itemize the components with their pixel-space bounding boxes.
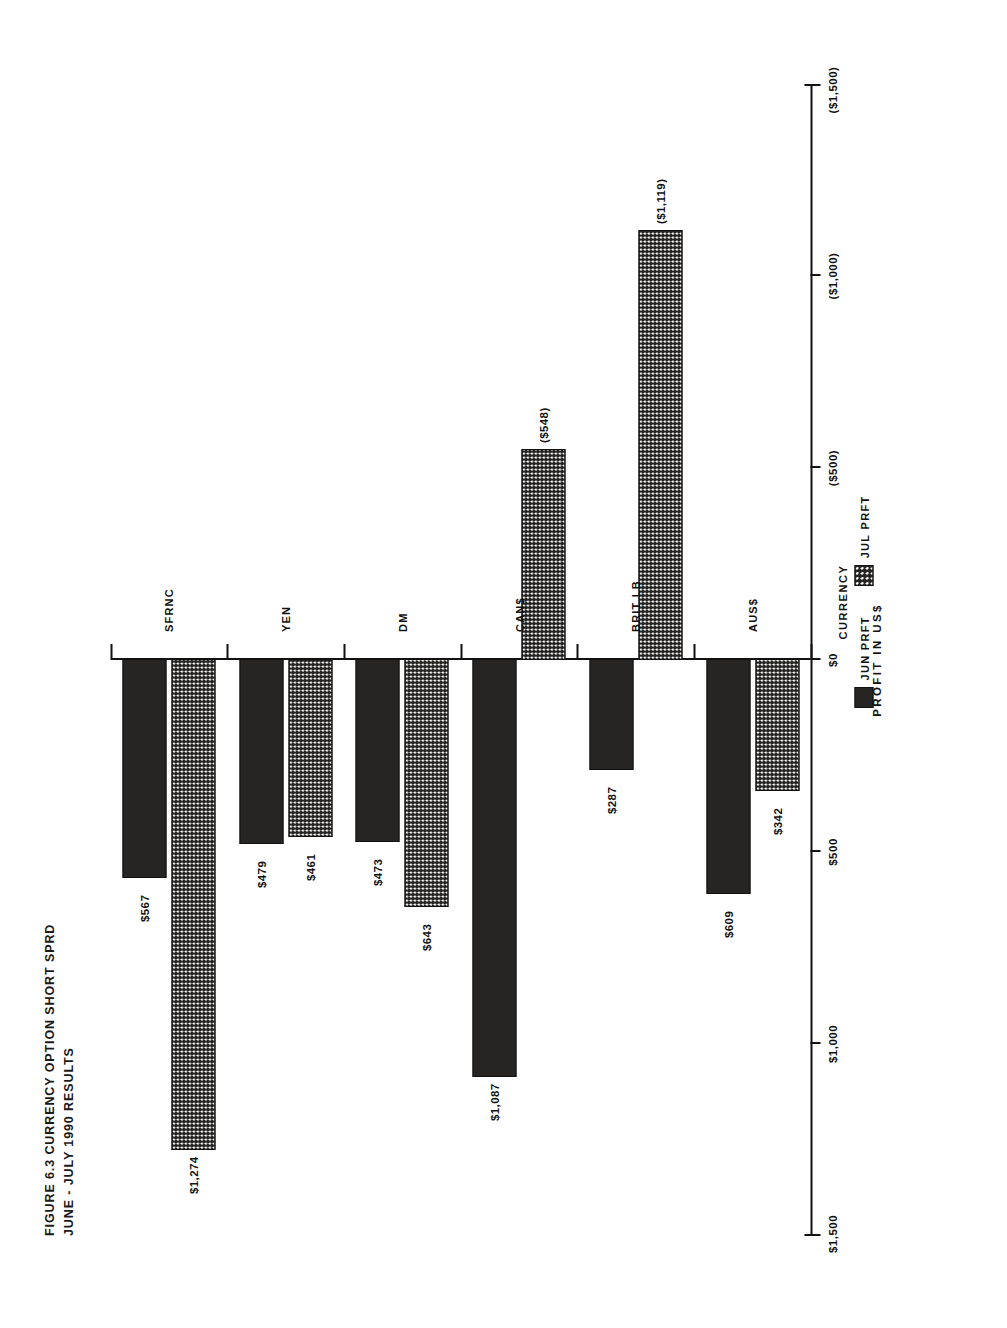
bar-jul-can <box>521 449 565 660</box>
axis-tick-500 <box>810 850 820 852</box>
bar-label-jul-can: ($548) <box>537 407 549 443</box>
legend-items: JUN PRFT JUL PRFT <box>854 432 873 772</box>
category-label-yen: YEN <box>279 606 291 632</box>
bar-jun-dm <box>355 659 399 842</box>
category-tick-4 <box>343 644 345 658</box>
category-label-sfrnc: SFRNC <box>162 588 174 632</box>
bar-label-jul-yen: $461 <box>304 854 316 881</box>
category-tick-1 <box>693 644 695 658</box>
figure-title-line-1: FIGURE 6.3 CURRENCY OPTION SHORT SPRD <box>42 924 56 1236</box>
category-tick-2 <box>576 644 578 658</box>
bar-label-jul-brit: ($1,119) <box>654 179 666 224</box>
category-label-dm: DM <box>396 612 408 632</box>
bar-jun-sfrnc <box>122 659 166 878</box>
bar-label-jun-sfrnc: $567 <box>138 895 150 922</box>
category-label-aus: AUS$ <box>746 598 758 632</box>
legend-label-jun: JUN PRFT <box>858 616 870 680</box>
category-tick-3 <box>460 644 462 658</box>
axis-ticklabel-1500: $1,500 <box>826 1215 838 1253</box>
category-tick-5 <box>226 644 228 658</box>
bar-label-jul-dm: $643 <box>420 924 432 951</box>
axis-tick-0 <box>810 658 820 660</box>
bar-jul-aus <box>755 659 799 791</box>
category-tick-0 <box>810 644 812 658</box>
plot-area: $1,500 $1,000 $500 $0 ($500) ($1,000) ($… <box>110 84 810 1236</box>
bar-label-jul-aus: $342 <box>771 808 783 835</box>
bar-jul-yen <box>288 659 332 837</box>
axis-ticklabel-1000: $1,000 <box>826 1025 838 1063</box>
axis-ticklabel-500: $500 <box>826 838 838 866</box>
category-tick-6 <box>110 644 112 658</box>
bar-label-jul-sfrnc: $1,274 <box>187 1156 199 1194</box>
bar-jun-aus <box>706 659 750 894</box>
axis-tick-neg1500 <box>804 84 820 86</box>
axis-tick-neg500 <box>810 466 820 468</box>
legend: CURRENCY JUN PRFT JUL PRFT <box>836 432 873 772</box>
bar-label-jun-aus: $609 <box>722 911 734 938</box>
bar-label-jun-brit: $287 <box>605 787 617 814</box>
bar-jun-brit <box>589 659 633 770</box>
bar-jul-brit <box>638 230 682 660</box>
legend-item-jul: JUL PRFT <box>854 496 873 587</box>
bar-label-jun-dm: $473 <box>371 859 383 886</box>
legend-label-jul: JUL PRFT <box>858 496 870 559</box>
bar-jun-can <box>472 659 516 1077</box>
category-label-brit: BRIT LB <box>629 580 641 632</box>
axis-tick-1500 <box>804 1234 820 1236</box>
bar-jul-dm <box>404 659 448 907</box>
axis-tick-neg1000 <box>810 274 820 276</box>
bar-jul-sfrnc <box>171 659 215 1150</box>
bar-label-jun-can: $1,087 <box>488 1083 500 1121</box>
axis-ticklabel-neg1500: ($1,500) <box>826 67 838 114</box>
figure-canvas: FIGURE 6.3 CURRENCY OPTION SHORT SPRD JU… <box>0 0 1007 1328</box>
legend-title: CURRENCY <box>836 432 848 772</box>
legend-item-jun: JUN PRFT <box>854 616 873 708</box>
figure-title: FIGURE 6.3 CURRENCY OPTION SHORT SPRD JU… <box>40 924 78 1236</box>
axis-ticklabel-neg1000: ($1,000) <box>826 253 838 300</box>
legend-swatch-jun-icon <box>854 687 873 708</box>
axis-tick-1000 <box>810 1042 820 1044</box>
value-axis-line <box>810 84 812 1236</box>
category-label-can: CAN$ <box>513 597 525 632</box>
bar-jun-yen <box>239 659 283 844</box>
bar-label-jun-yen: $479 <box>255 861 267 888</box>
figure-title-line-2: JUNE - JULY 1990 RESULTS <box>61 1047 75 1236</box>
legend-swatch-jul-icon <box>854 565 873 586</box>
